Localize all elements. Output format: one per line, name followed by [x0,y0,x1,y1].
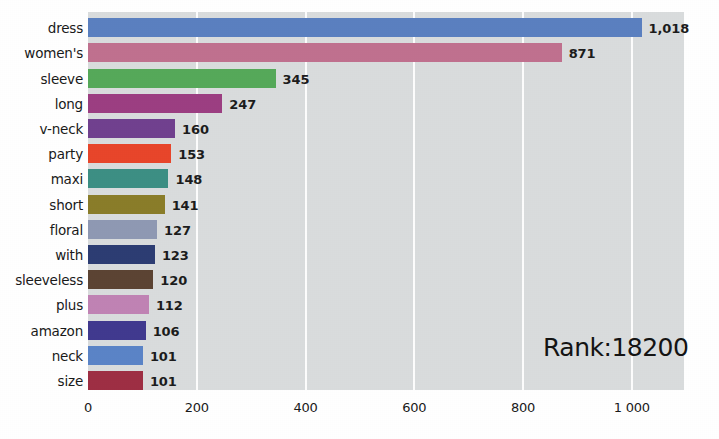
bar [88,18,642,37]
bar-chart: 1,01887134524716015314814112712312011210… [0,0,719,439]
bar [88,195,165,214]
category-label: women's [0,46,83,60]
category-label: neck [0,349,83,363]
bar-value-label: 247 [229,97,256,112]
bar [88,69,276,88]
bar-value-label: 141 [172,198,199,213]
x-tick-label: 400 [293,400,317,415]
bar [88,43,562,62]
category-label: party [0,147,83,161]
category-label: floral [0,223,83,237]
bar-value-label: 871 [569,46,596,61]
bar-value-label: 120 [160,273,187,288]
bar [88,270,153,289]
category-label: maxi [0,172,83,186]
bar [88,169,168,188]
category-label: dress [0,21,83,35]
category-label: plus [0,298,83,312]
bar-value-label: 101 [150,374,177,389]
category-label: long [0,97,83,111]
bar-value-label: 345 [283,72,310,87]
category-label: v-neck [0,122,83,136]
x-tick-label: 600 [402,400,426,415]
bar-value-label: 112 [156,298,183,313]
bar [88,220,157,239]
bar [88,321,146,340]
bar-value-label: 127 [164,223,191,238]
x-axis: 02004006008001 000 [0,392,719,422]
x-tick-label: 800 [511,400,535,415]
category-label: amazon [0,324,83,338]
bar [88,94,222,113]
category-label: with [0,248,83,262]
bar [88,371,143,390]
bar [88,144,171,163]
bar [88,119,175,138]
bar [88,346,143,365]
category-label: sleeveless [0,273,83,287]
x-tick-label: 1 000 [614,400,650,415]
category-label: short [0,198,83,212]
bar [88,245,155,264]
category-label: sleeve [0,72,83,86]
x-tick-label: 0 [84,400,92,415]
category-label: size [0,374,83,388]
bar-value-label: 153 [178,147,205,162]
bar [88,295,149,314]
bar-value-label: 123 [162,248,189,263]
bar-value-label: 160 [182,122,209,137]
bar-value-label: 1,018 [649,21,690,36]
bar-value-label: 148 [175,172,202,187]
bar-value-label: 101 [150,349,177,364]
rank-annotation: Rank:18200 [543,333,688,362]
x-tick-label: 200 [185,400,209,415]
bar-value-label: 106 [153,324,180,339]
category-axis-labels: dresswomen'ssleevelongv-neckpartymaxisho… [0,0,83,439]
